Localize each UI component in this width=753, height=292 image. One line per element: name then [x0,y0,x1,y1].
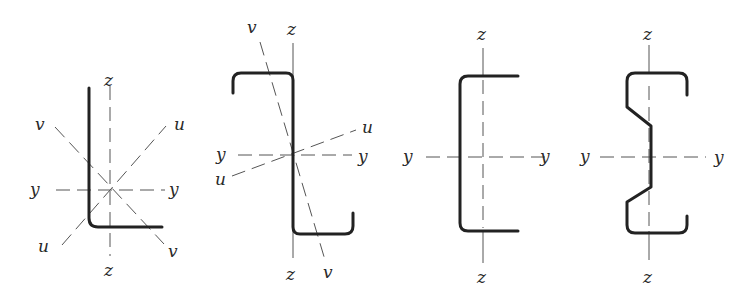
z-top-label: z [642,24,653,44]
y-left-label: y [29,179,40,199]
v-bottom-label: v [168,241,178,261]
y-right-label: y [539,146,550,166]
channel-section: z z y y [402,24,550,287]
profile-sections-diagram: z z y y v u u v z z y y v v u u z z y y [0,0,753,292]
v-top-label: v [247,17,257,37]
y-right-label: y [357,146,368,166]
z-bottom-label: z [476,267,487,287]
z-profile [233,73,353,234]
u-top-label: u [174,114,185,134]
z-top-label: z [286,19,297,39]
u-bottom-label: u [215,169,226,189]
z-top-label: z [103,70,114,90]
z-section: z z y y v v u u [215,17,373,284]
channel-profile [460,76,518,231]
sigma-section: z z y y [579,24,724,287]
y-right-label: y [168,179,179,199]
angle-section: z z y y v u u v [29,70,185,280]
y-left-label: y [402,146,413,166]
y-right-label: y [713,147,724,167]
z-bottom-label: z [642,267,653,287]
z-top-label: z [476,24,487,44]
z-bottom-label: z [285,264,296,284]
z-bottom-label: z [103,260,114,280]
v-top-label: v [35,114,45,134]
y-left-label: y [215,144,226,164]
u-bottom-label: u [38,236,49,256]
v-bottom-label: v [323,262,333,282]
angle-profile [89,88,162,227]
sigma-profile [627,73,687,233]
y-left-label: y [579,146,590,166]
u-top-label: u [362,117,373,137]
